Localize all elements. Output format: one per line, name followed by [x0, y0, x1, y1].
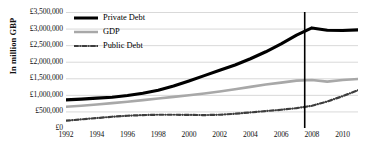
x-axis-tick-label: 2004 [243, 130, 258, 140]
series-line-gdp [66, 79, 358, 107]
y-axis-tick-labels: £0£500,000£1,000,000£1,500,000£2,000,000… [0, 0, 63, 157]
legend-item-gdp[interactable]: GDP [74, 25, 184, 38]
legend-item-private-debt[interactable]: Private Debt [74, 11, 184, 24]
y-axis-tick-label: £2,000,000 [3, 58, 63, 66]
legend-label: Private Debt [103, 12, 145, 24]
series-line-public-debt [66, 90, 358, 120]
x-axis-tick-label: 1996 [120, 130, 135, 140]
x-axis-tick-label: 2000 [182, 130, 197, 140]
legend-swatch-gdp-icon [74, 26, 98, 38]
y-axis-tick-label: £3,500,000 [3, 8, 63, 16]
y-axis-tick-label: £3,000,000 [3, 25, 63, 33]
x-axis-tick-labels: 1992199419961998200020022004200620082010 [66, 130, 358, 144]
x-axis-tick-label: 1998 [151, 130, 166, 140]
legend-item-public-debt[interactable]: Public Debt [74, 39, 184, 52]
x-axis-tick-label: 1992 [59, 130, 74, 140]
legend-swatch-public-debt-icon [74, 40, 98, 52]
y-axis-tick-label: £1,000,000 [3, 91, 63, 99]
x-axis-tick-label: 2002 [212, 130, 227, 140]
x-axis-tick-label: 2010 [335, 130, 350, 140]
chart-legend: Private DebtGDPPublic Debt [74, 11, 184, 53]
x-axis-tick-label: 2008 [304, 130, 319, 140]
y-axis-tick-label: £0 [3, 124, 63, 132]
legend-swatch-private-debt-icon [74, 12, 98, 24]
line-chart: In million GBP £0£500,000£1,000,000£1,50… [0, 0, 368, 157]
x-axis-tick-label: 2006 [274, 130, 289, 140]
y-axis-tick-label: £1,500,000 [3, 74, 63, 82]
x-axis-tick-label: 1994 [89, 130, 104, 140]
legend-label: GDP [103, 26, 120, 38]
y-axis-tick-label: £500,000 [3, 107, 63, 115]
legend-label: Public Debt [103, 40, 143, 52]
y-axis-tick-label: £2,500,000 [3, 41, 63, 49]
